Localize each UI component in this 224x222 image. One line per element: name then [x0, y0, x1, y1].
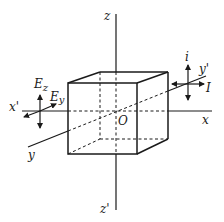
- cube: [68, 72, 168, 154]
- label-z-prime: z': [99, 202, 110, 216]
- ey-backward-arrow-icon: [24, 111, 40, 117]
- cube-hidden-edge: [68, 139, 100, 154]
- label-y: y: [27, 148, 35, 162]
- label-ez: Ez: [33, 77, 49, 93]
- label-i: i: [185, 50, 189, 64]
- cube-axes-diagram: z z' x x' y y' O Ez Ey i I: [0, 0, 224, 222]
- label-I: I: [205, 81, 211, 95]
- label-origin: O: [118, 114, 128, 128]
- label-ey: Ey: [49, 90, 65, 105]
- label-z: z: [103, 9, 111, 23]
- ey-forward-arrow-icon: [40, 104, 56, 111]
- label-x: x: [202, 113, 209, 127]
- label-x-prime: x': [9, 100, 19, 114]
- label-y-prime: y': [198, 62, 209, 76]
